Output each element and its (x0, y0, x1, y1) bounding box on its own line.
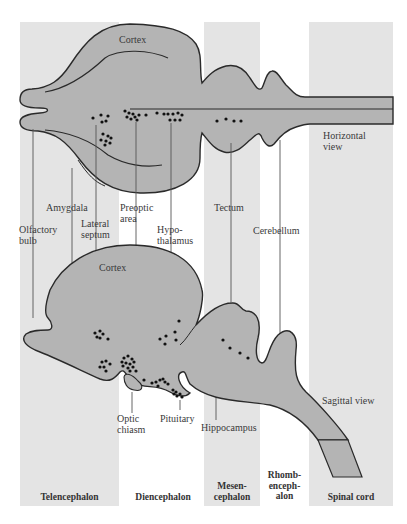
lateral-septum-label: Lateral septum (81, 218, 110, 240)
preoptic-area-label: Preoptic area (120, 202, 153, 224)
cortex-label-sagittal: Cortex (99, 262, 126, 273)
olfactory-bulb-label: Olfactory bulb (19, 224, 57, 246)
optic-chiasm-label: Optic chiasm (117, 413, 145, 435)
region-label-spinal-cord: Spinal cord (309, 492, 393, 503)
region-label-mesencephalon: Mesen- cephalon (204, 481, 260, 502)
horizontal-view-label: Horizontal view (323, 130, 366, 152)
cerebellum-label: Cerebellum (253, 225, 300, 236)
region-label-telencephalon: Telencephalon (20, 492, 119, 503)
sagittal-view-label: Sagittal view (322, 395, 375, 406)
pituitary-label: Pituitary (160, 413, 194, 424)
hippocampus-label: Hippocampus (201, 422, 257, 433)
amygdala-label: Amygdala (46, 202, 88, 213)
region-label-rhombencephalon: Rhomb- enceph- alon (260, 470, 309, 502)
cortex-label-horizontal: Cortex (119, 34, 146, 45)
hypothalamus-label: Hypo- thalamus (157, 224, 193, 246)
region-label-diencephalon: Diencephalon (124, 492, 202, 503)
diagram-canvas (0, 0, 407, 524)
brain-region-diagram: Cortex Horizontal view Amygdala Preoptic… (0, 0, 407, 524)
tectum-label: Tectum (214, 202, 244, 213)
